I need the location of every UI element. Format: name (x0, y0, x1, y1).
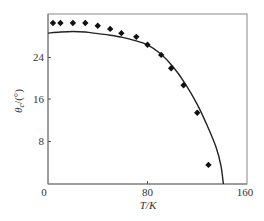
data-point-diamond (180, 82, 186, 88)
theory-curve (48, 32, 223, 184)
data-point-diamond (205, 162, 211, 168)
y-tick-label-8: 8 (39, 135, 45, 147)
data-point-diamond (133, 34, 139, 40)
y-tick-label-24: 24 (33, 51, 45, 63)
data-point-diamond (70, 20, 76, 26)
data-point-diamond (50, 20, 56, 26)
y-axis-label-unit: /(°) (12, 89, 25, 104)
data-point-diamond (107, 26, 113, 32)
x-tick-label-0: 0 (41, 186, 47, 198)
y-tick-label-16: 16 (33, 93, 45, 105)
x-tick-label-80: 80 (142, 186, 154, 198)
x-tick-label-160: 160 (237, 186, 254, 198)
plot-frame (48, 14, 247, 184)
data-point-diamond (82, 20, 88, 26)
data-point-diamond (194, 110, 200, 116)
chart: 24 16 8 0 80 160 T/K θc/(°) (0, 0, 264, 221)
data-point-diamond (168, 65, 174, 71)
x-axis-label: T/K (140, 199, 157, 211)
svg-text:θc/(°): θc/(°) (12, 89, 26, 113)
data-point-diamond (118, 30, 124, 36)
y-axis-label: θc/(°) (12, 89, 26, 113)
data-point-diamond (57, 20, 63, 26)
data-point-diamond (144, 42, 150, 48)
data-point-diamond (95, 22, 101, 28)
data-points (50, 20, 212, 168)
theory-curve-path (48, 32, 223, 184)
